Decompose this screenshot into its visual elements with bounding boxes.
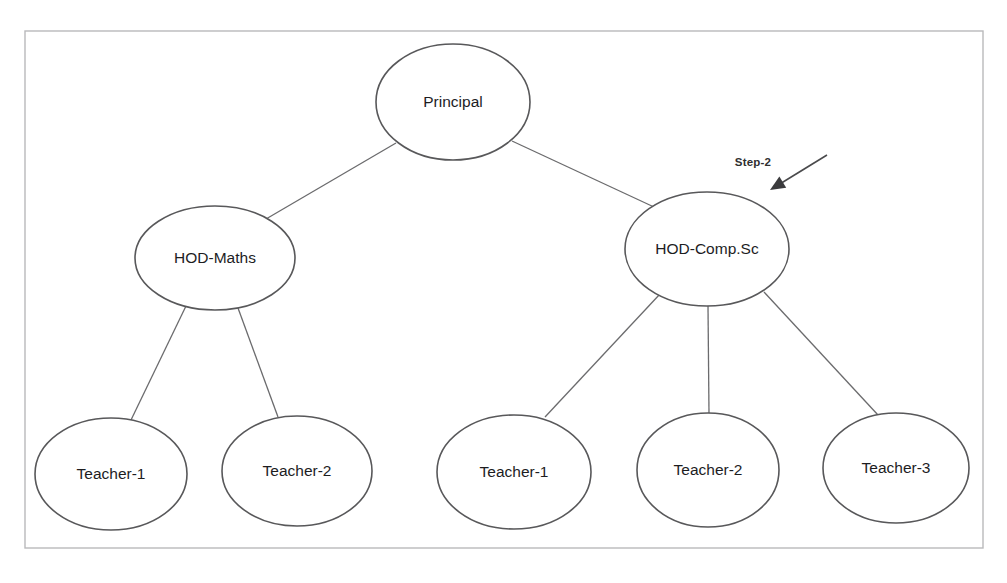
node-label-principal: Principal xyxy=(423,93,482,110)
node-label-hod-comp-sc: HOD-Comp.Sc xyxy=(655,240,759,257)
step-2-label: Step-2 xyxy=(735,156,771,168)
edge-hod-comp-teacher-1 xyxy=(545,294,660,417)
node-label-comp-teacher-2: Teacher-2 xyxy=(674,461,743,478)
node-label-maths-teacher-1: Teacher-1 xyxy=(77,465,146,482)
edge-hod-comp-teacher-3 xyxy=(764,292,878,415)
node-comp-teacher-1[interactable]: Teacher-1 xyxy=(437,415,591,529)
node-principal[interactable]: Principal xyxy=(376,44,530,160)
step-2-annotation-group: Step-2 xyxy=(735,155,827,190)
node-label-maths-teacher-2: Teacher-2 xyxy=(263,462,332,479)
node-maths-teacher-2[interactable]: Teacher-2 xyxy=(222,416,372,526)
node-comp-teacher-3[interactable]: Teacher-3 xyxy=(823,413,969,523)
edge-principal-hod-comp xyxy=(512,141,654,207)
node-maths-teacher-1[interactable]: Teacher-1 xyxy=(35,418,187,530)
node-comp-teacher-2[interactable]: Teacher-2 xyxy=(637,413,779,527)
node-hod-maths[interactable]: HOD-Maths xyxy=(135,206,295,310)
node-label-comp-teacher-1: Teacher-1 xyxy=(480,463,549,480)
edge-principal-hod-maths xyxy=(266,143,396,219)
edge-hod-maths-teacher-1 xyxy=(131,306,186,420)
node-label-comp-teacher-3: Teacher-3 xyxy=(862,459,931,476)
step-2-arrow-head-icon xyxy=(770,177,786,190)
diagram-canvas: PrincipalHOD-MathsHOD-Comp.ScTeacher-1Te… xyxy=(0,0,1007,583)
edge-hod-comp-teacher-2 xyxy=(708,306,709,414)
node-label-hod-maths: HOD-Maths xyxy=(174,249,256,266)
node-hod-comp-sc[interactable]: HOD-Comp.Sc xyxy=(625,192,789,306)
hierarchy-diagram: PrincipalHOD-MathsHOD-Comp.ScTeacher-1Te… xyxy=(0,0,1007,583)
step-2-arrow-line xyxy=(780,155,827,184)
nodes-group: PrincipalHOD-MathsHOD-Comp.ScTeacher-1Te… xyxy=(35,44,969,530)
edge-hod-maths-teacher-2 xyxy=(238,308,278,417)
